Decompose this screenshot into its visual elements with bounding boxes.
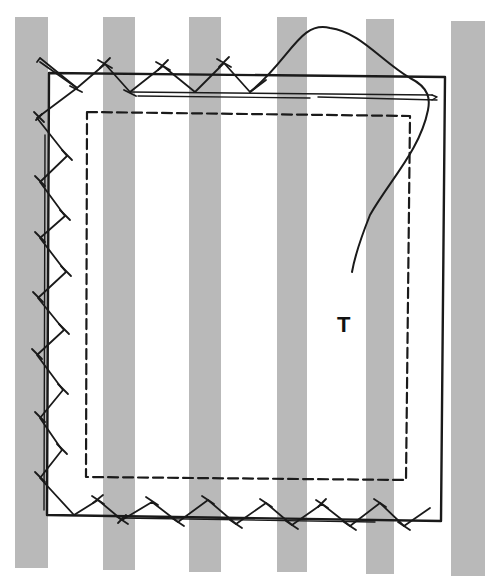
fabric-stripe [15, 150, 48, 568]
thread-label: T [337, 312, 350, 338]
fabric-stripe [15, 17, 48, 167]
fabric-stripe [277, 17, 307, 572]
fabric-stripe [103, 17, 135, 570]
fabric-stripe [366, 19, 394, 574]
diagram-canvas [0, 0, 503, 588]
thread [250, 27, 429, 272]
fabric-stripe [189, 17, 221, 572]
herringbone-stitches-top [37, 57, 266, 96]
fabric-stripe [451, 21, 485, 576]
